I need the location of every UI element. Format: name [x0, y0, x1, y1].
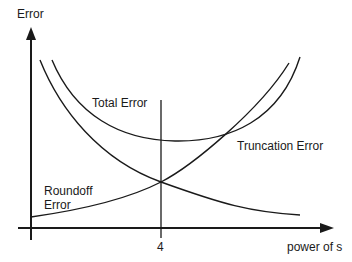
x-axis — [18, 223, 334, 233]
roundoff-error-label-line2: Error — [44, 198, 71, 212]
y-axis — [26, 27, 36, 240]
total-error-curve — [52, 57, 300, 141]
total-error-label: Total Error — [92, 96, 147, 110]
x-tick-label-4: 4 — [157, 240, 164, 254]
x-axis-arrow-icon — [320, 223, 334, 233]
error-tradeoff-diagram: Error Total Error Truncation Error Round… — [0, 0, 352, 262]
x-axis-label: power of s — [287, 240, 342, 254]
y-axis-arrow-icon — [26, 27, 36, 40]
y-axis-label: Error — [17, 7, 44, 21]
diagram-canvas — [0, 0, 352, 262]
roundoff-error-label-line1: Roundoff — [44, 184, 93, 198]
truncation-error-label: Truncation Error — [237, 139, 323, 153]
